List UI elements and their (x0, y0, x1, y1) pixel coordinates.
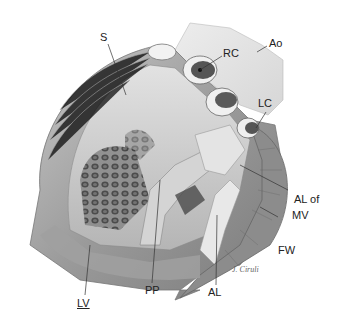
label-anterolateral-papillary: AL (208, 287, 221, 298)
label-right-coronary-cusp: RC (223, 48, 239, 59)
label-aorta: Ao (269, 38, 282, 49)
anatomical-illustration: S RC Ao LC AL of MV FW AL PP LV J. Cirul… (0, 0, 338, 323)
heart-drawing (0, 0, 338, 323)
artist-signature: J. Ciruli (232, 265, 259, 274)
label-anterior-leaflet-mitral-line2: MV (292, 210, 309, 221)
label-posterior-papillary: PP (145, 285, 160, 296)
label-left-coronary-cusp: LC (258, 98, 272, 109)
label-septum: S (100, 32, 107, 43)
label-free-wall: FW (278, 245, 295, 256)
label-left-ventricle: LV (77, 298, 90, 309)
label-anterior-leaflet-mitral-line1: AL of (294, 194, 319, 205)
